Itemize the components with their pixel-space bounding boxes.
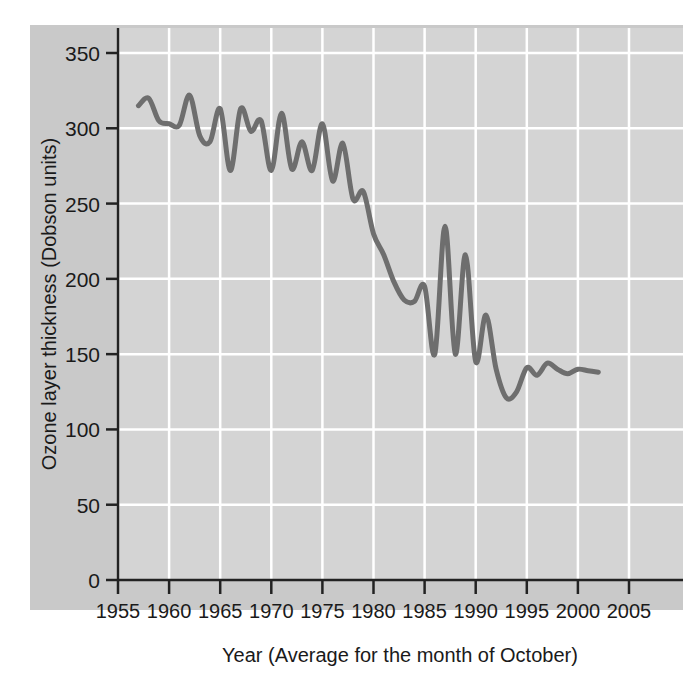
x-tick-label: 1975 [300,600,345,622]
y-tick-label: 0 [88,569,100,592]
y-tick-label: 150 [65,343,100,366]
y-tick-label: 50 [77,494,100,517]
y-axis-title: Ozone layer thickness (Dobson units) [38,138,60,470]
x-tick-label: 1985 [402,600,447,622]
x-tick-label: 2005 [607,600,652,622]
ozone-chart-figure: 050100150200250300350 195519601965197019… [0,0,691,679]
x-tick-label: 1965 [198,600,243,622]
y-tick-label: 250 [65,193,100,216]
ozone-line-chart: 050100150200250300350 195519601965197019… [0,0,691,679]
x-tick-label: 1990 [453,600,498,622]
x-axis-tick-labels: 1955196019651970197519801985199019952000… [96,600,652,622]
y-tick-label: 350 [65,42,100,65]
y-tick-label: 200 [65,268,100,291]
x-tick-label: 1960 [147,600,192,622]
x-tick-label: 1955 [96,600,141,622]
y-tick-label: 100 [65,418,100,441]
x-tick-label: 2000 [556,600,601,622]
plot-area-background [118,28,683,580]
x-tick-label: 1970 [249,600,294,622]
x-tick-label: 1980 [351,600,396,622]
y-tick-label: 300 [65,117,100,140]
x-axis-title: Year (Average for the month of October) [222,644,578,666]
x-tick-label: 1995 [505,600,550,622]
